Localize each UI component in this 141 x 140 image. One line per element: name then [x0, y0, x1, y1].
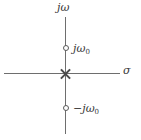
zero-marker-upper — [63, 45, 69, 51]
zero-label-upper-main: jω — [73, 42, 85, 55]
zero-label-lower-subscript: 0 — [95, 108, 99, 116]
pole-marker-origin — [59, 67, 72, 80]
sigma-axis-label: σ — [123, 65, 131, 76]
zero-label-lower-main: −jω — [73, 102, 95, 115]
zero-label-lower: −jω0 — [73, 103, 99, 114]
jomega-axis-label: jω — [57, 2, 69, 13]
s-plane-pole-zero-figure: jω σ jω0 −jω0 — [0, 0, 141, 140]
zero-label-upper: jω0 — [73, 43, 90, 54]
zero-label-upper-subscript: 0 — [85, 48, 89, 56]
zero-marker-lower — [63, 105, 69, 111]
